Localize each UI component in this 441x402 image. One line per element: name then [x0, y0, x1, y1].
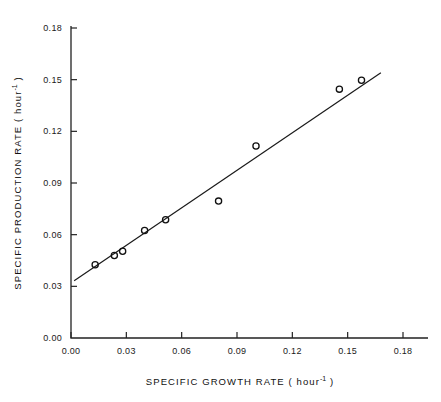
data-point-marker — [120, 248, 126, 254]
x-axis-title-tail: ) — [326, 376, 334, 387]
data-point-marker — [253, 143, 259, 149]
x-tick-label: 0.06 — [172, 346, 191, 356]
y-tick-label: 0.12 — [43, 126, 62, 136]
y-axis-title-main: SPECIFIC PRODUCTION RATE ( hour — [12, 91, 23, 290]
y-tick-label: 0.03 — [43, 281, 62, 291]
axis-lines — [71, 26, 428, 338]
y-tick-label: 0.00 — [43, 333, 62, 343]
x-tick-label: 0.15 — [338, 346, 357, 356]
x-tick-label: 0.09 — [228, 346, 247, 356]
x-tick-label: 0.00 — [62, 346, 81, 356]
y-axis-title-tail: ) — [12, 76, 23, 84]
data-point-marker — [358, 77, 364, 83]
x-tick-label: 0.18 — [394, 346, 413, 356]
x-axis-title-main: SPECIFIC GROWTH RATE ( hour — [146, 376, 320, 387]
x-tick-label: 0.03 — [117, 346, 136, 356]
y-tick-label: 0.09 — [43, 178, 62, 188]
y-tick-label: 0.18 — [43, 23, 62, 33]
data-point-marker — [215, 198, 221, 204]
x-axis-title: SPECIFIC GROWTH RATE ( hour-1 ) — [146, 375, 334, 387]
x-tick-label: 0.12 — [283, 346, 302, 356]
plot-canvas — [0, 0, 441, 402]
data-point-marker — [336, 86, 342, 92]
scatter-plot-figure: 0.000.030.060.090.120.150.18 0.000.030.0… — [0, 0, 441, 402]
y-axis-title-exponent: -1 — [11, 84, 18, 90]
data-points — [92, 77, 365, 268]
y-tick-label: 0.06 — [43, 230, 62, 240]
y-axis-title: SPECIFIC PRODUCTION RATE ( hour-1 ) — [11, 76, 23, 289]
y-tick-label: 0.15 — [43, 75, 62, 85]
axes — [71, 26, 428, 338]
x-tick-marks — [71, 332, 403, 338]
y-tick-marks — [71, 28, 77, 286]
